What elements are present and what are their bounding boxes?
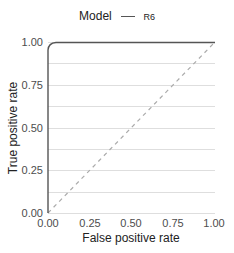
gridlines: [48, 43, 215, 193]
y-tick-labels: 1.00 0.75 0.50 0.25 0.00: [22, 36, 43, 219]
y-tick-1.00: 1.00: [22, 36, 43, 48]
y-tick-0.50: 0.50: [22, 122, 43, 134]
x-tick-0.25: 0.25: [79, 217, 100, 229]
chance-diagonal: [48, 42, 215, 213]
x-tick-labels: 0.00 0.25 0.50 0.75 1.00: [37, 217, 224, 229]
x-tick-1.00: 1.00: [203, 217, 224, 229]
x-axis-title: False positive rate: [82, 231, 180, 245]
y-tick-0.75: 0.75: [22, 79, 43, 91]
x-tick-0.00: 0.00: [37, 217, 58, 229]
y-axis-title: True positive rate: [6, 82, 20, 175]
y-tick-0.25: 0.25: [22, 164, 43, 176]
x-tick-0.75: 0.75: [162, 217, 183, 229]
roc-plot: 1.00 0.75 0.50 0.25 0.00 0.00 0.25 0.50 …: [0, 0, 234, 253]
x-tick-0.50: 0.50: [120, 217, 141, 229]
